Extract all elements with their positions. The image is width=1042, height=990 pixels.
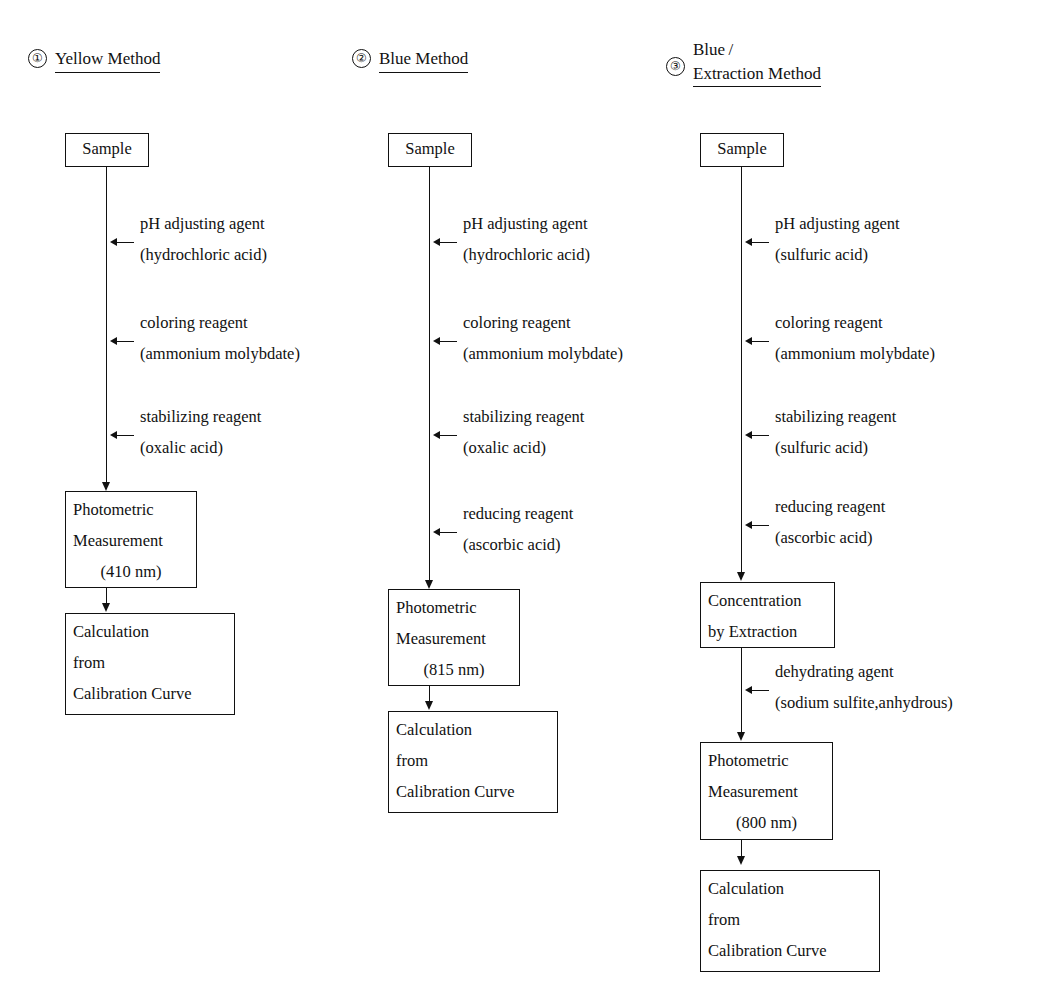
reagent-label-3-5: dehydrating agent (sodium sulfite,anhydr… [775,656,953,718]
reagent-label-2-3: stabilizing reagent (oxalic acid) [463,401,584,463]
flow-line-3b [741,648,742,734]
reagent-label-3-1: pH adjusting agent (sulfuric acid) [775,208,900,270]
diagram-canvas: ①Yellow Method Sample pH adjusting agent… [0,0,1042,990]
node-measurement-2: Photometric Measurement (815 nm) [388,589,520,686]
reagent-label-3-2: coloring reagent (ammonium molybdate) [775,307,935,369]
flow-line-1 [106,167,107,489]
circled-number-3-icon: ③ [666,57,685,76]
flow-arrowhead-3 [737,572,745,581]
flow-arrowhead-3b [737,732,745,741]
column-header-2: ②Blue Method [352,46,468,73]
flow-arrowhead-1b [102,603,110,612]
reagent-label-3-3: stabilizing reagent (sulfuric acid) [775,401,896,463]
reagent-arrow-2-1 [433,238,459,247]
flow-arrowhead-2 [425,580,433,589]
reagent-label-1-3: stabilizing reagent (oxalic acid) [140,401,261,463]
node-sample-2: Sample [388,133,472,167]
circled-number-2-icon: ② [352,49,371,68]
reagent-arrow-2-2 [433,337,459,346]
column-header-3: ③Blue /Extraction Method [666,38,821,87]
node-calculation-2: Calculation from Calibration Curve [388,711,558,813]
reagent-arrow-1-3 [110,431,136,440]
reagent-arrow-3-5 [745,686,771,695]
reagent-label-2-1: pH adjusting agent (hydrochloric acid) [463,208,590,270]
column-header-1: ①Yellow Method [28,46,160,73]
node-concentration-3: Concentration by Extraction [700,582,835,648]
reagent-arrow-3-4 [745,521,771,530]
column-title-3-line1: Blue / [693,38,821,61]
node-measurement-1: Photometric Measurement (410 nm) [65,491,197,588]
node-sample-1: Sample [65,133,149,167]
circled-number-1-icon: ① [28,49,47,68]
flow-arrowhead-2b [425,701,433,710]
reagent-label-1-1: pH adjusting agent (hydrochloric acid) [140,208,267,270]
node-calculation-3: Calculation from Calibration Curve [700,870,880,972]
column-title-3-line2: Extraction Method [693,62,821,87]
reagent-arrow-3-1 [745,238,771,247]
node-sample-3: Sample [700,133,784,167]
reagent-arrow-3-2 [745,337,771,346]
node-measurement-3: Photometric Measurement (800 nm) [700,742,833,840]
reagent-label-2-2: coloring reagent (ammonium molybdate) [463,307,623,369]
reagent-label-1-2: coloring reagent (ammonium molybdate) [140,307,300,369]
column-title-1: Yellow Method [55,46,160,73]
flow-line-3 [741,167,742,579]
node-calculation-1: Calculation from Calibration Curve [65,613,235,715]
reagent-label-3-4: reducing reagent (ascorbic acid) [775,491,885,553]
reagent-arrow-1-2 [110,337,136,346]
reagent-arrow-2-4 [433,528,459,537]
flow-arrowhead-3c [737,856,745,865]
reagent-arrow-2-3 [433,431,459,440]
reagent-label-2-4: reducing reagent (ascorbic acid) [463,498,573,560]
reagent-arrow-3-3 [745,431,771,440]
reagent-arrow-1-1 [110,238,136,247]
flow-line-2 [429,167,430,587]
flow-arrowhead-1 [102,482,110,491]
column-title-2: Blue Method [379,46,468,73]
column-title-3: Blue /Extraction Method [693,38,821,87]
